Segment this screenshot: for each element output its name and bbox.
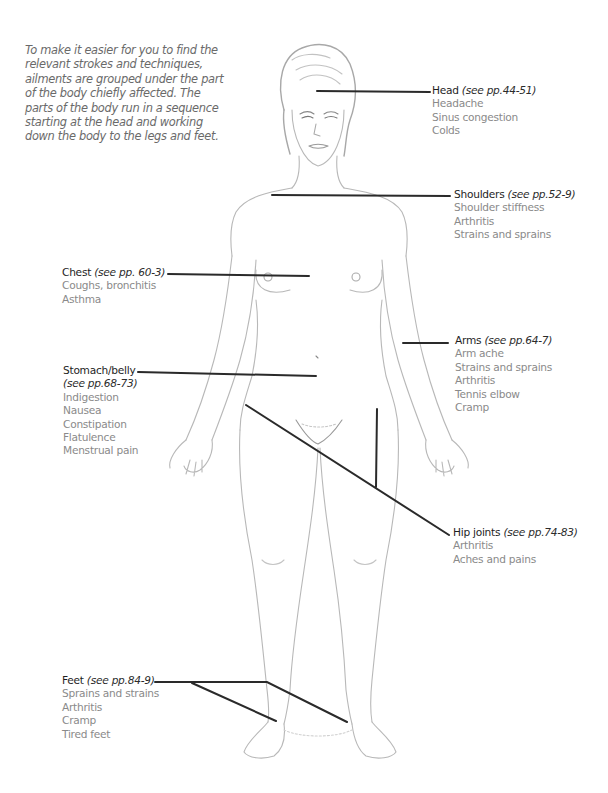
ailment-item: Shoulder stiffness [454, 201, 575, 214]
hips-title: Hip joints [453, 526, 500, 538]
hips-leader-line-diagonal [246, 405, 449, 535]
chest-title: Chest [62, 266, 91, 278]
ailment-item: Sinus congestion [432, 111, 536, 124]
chest-page-ref: (see pp. 60-3) [94, 266, 165, 278]
ailment-item: Menstrual pain [63, 444, 138, 457]
ailment-item: Tennis elbow [455, 388, 552, 401]
shoulders-leader-line [272, 195, 450, 196]
hips-leader-line-vertical [376, 409, 377, 487]
ailment-item: Flatulence [63, 431, 138, 444]
head-title: Head [432, 84, 459, 96]
feet-label: Feet (see pp.84-9) Sprains and strains A… [62, 674, 159, 741]
ailment-item: Indigestion [63, 391, 138, 404]
ailment-item: Colds [432, 124, 536, 137]
shoulders-title: Shoulders [454, 188, 504, 200]
stomach-page-ref: (see pp.68-73) [63, 377, 138, 390]
head-page-ref: (see pp.44-51) [462, 84, 536, 96]
feet-page-ref: (see pp.84-9) [87, 674, 155, 686]
ailment-item: Cramp [455, 401, 552, 414]
shoulders-label: Shoulders (see pp.52-9) Shoulder stiffne… [454, 188, 575, 242]
ailment-item: Strains and sprains [454, 228, 575, 241]
ailment-item: Constipation [63, 418, 138, 431]
stomach-leader-line [138, 372, 316, 376]
ailment-item: Strains and sprains [455, 361, 552, 374]
ailment-item: Arthritis [455, 374, 552, 387]
arms-title: Arms [455, 334, 481, 346]
head-label: Head (see pp.44-51) Headache Sinus conge… [432, 84, 536, 138]
ailment-item: Arthritis [62, 701, 159, 714]
feet-title: Feet [62, 674, 84, 686]
ailment-item: Arm ache [455, 347, 552, 360]
head-ailment-list: Headache Sinus congestion Colds [432, 97, 536, 137]
ailment-item: Sprains and strains [62, 687, 159, 700]
stomach-label: Stomach/belly (see pp.68-73) Indigestion… [63, 364, 138, 458]
arms-page-ref: (see pp.64-7) [484, 334, 552, 346]
chest-label: Chest (see pp. 60-3) Coughs, bronchitis … [62, 266, 165, 306]
ailment-item: Arthritis [453, 539, 578, 552]
chest-ailment-list: Coughs, bronchitis Asthma [62, 279, 165, 306]
feet-leader-line-right [155, 682, 347, 722]
feet-leader-line-left [192, 683, 276, 721]
hips-label: Hip joints (see pp.74-83) Arthritis Ache… [453, 526, 578, 566]
feet-ailment-list: Sprains and strains Arthritis Cramp Tire… [62, 687, 159, 741]
ailment-item: Coughs, bronchitis [62, 279, 165, 292]
ailment-item: Tired feet [62, 728, 159, 741]
arms-ailment-list: Arm ache Strains and sprains Arthritis T… [455, 347, 552, 414]
ailment-item: Arthritis [454, 215, 575, 228]
hips-page-ref: (see pp.74-83) [503, 526, 577, 538]
chest-leader-line [168, 274, 309, 276]
head-leader-line [317, 91, 430, 92]
hips-ailment-list: Arthritis Aches and pains [453, 539, 578, 566]
stomach-title: Stomach/belly [63, 364, 138, 377]
ailment-item: Headache [432, 97, 536, 110]
ailment-item: Cramp [62, 714, 159, 727]
shoulders-page-ref: (see pp.52-9) [508, 188, 576, 200]
shoulders-ailment-list: Shoulder stiffness Arthritis Strains and… [454, 201, 575, 241]
ailment-item: Aches and pains [453, 553, 578, 566]
arms-label: Arms (see pp.64-7) Arm ache Strains and … [455, 334, 552, 414]
stomach-ailment-list: Indigestion Nausea Constipation Flatulen… [63, 391, 138, 458]
ailment-item: Asthma [62, 293, 165, 306]
ailment-item: Nausea [63, 404, 138, 417]
